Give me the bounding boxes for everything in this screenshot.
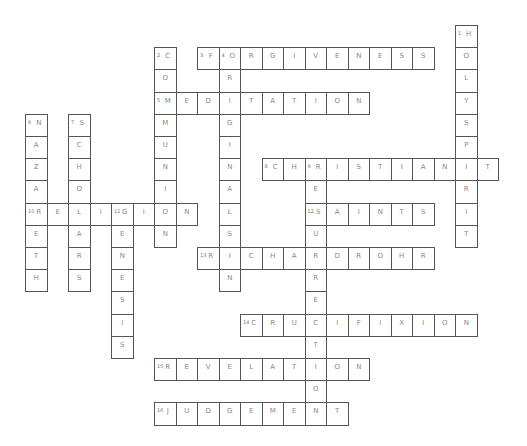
- crossword-cell[interactable]: I: [412, 314, 435, 337]
- crossword-cell[interactable]: A: [25, 180, 48, 203]
- crossword-cell[interactable]: I: [455, 158, 478, 181]
- crossword-cell[interactable]: A: [283, 247, 306, 270]
- crossword-cell[interactable]: A: [219, 180, 242, 203]
- crossword-cell[interactable]: S: [111, 291, 134, 314]
- crossword-cell[interactable]: L: [455, 69, 478, 92]
- crossword-cell[interactable]: 8C: [262, 158, 285, 181]
- crossword-cell[interactable]: Z: [25, 158, 48, 181]
- crossword-cell[interactable]: H: [283, 158, 306, 181]
- crossword-cell[interactable]: S: [111, 336, 134, 359]
- crossword-cell[interactable]: S: [455, 114, 478, 137]
- crossword-cell[interactable]: 16J: [154, 402, 177, 425]
- crossword-cell[interactable]: S: [219, 225, 242, 248]
- crossword-cell[interactable]: T: [305, 336, 328, 359]
- crossword-cell[interactable]: I: [391, 158, 414, 181]
- crossword-cell[interactable]: A: [262, 92, 285, 115]
- crossword-cell[interactable]: T: [326, 402, 349, 425]
- crossword-cell[interactable]: G: [262, 47, 285, 70]
- crossword-cell[interactable]: O: [154, 203, 177, 226]
- crossword-cell[interactable]: E: [47, 203, 70, 226]
- crossword-cell[interactable]: N: [219, 269, 242, 292]
- crossword-cell[interactable]: G: [219, 402, 242, 425]
- crossword-cell[interactable]: O: [326, 92, 349, 115]
- crossword-cell[interactable]: R: [305, 269, 328, 292]
- crossword-cell[interactable]: E: [111, 225, 134, 248]
- crossword-cell[interactable]: T: [455, 225, 478, 248]
- crossword-cell[interactable]: S: [412, 203, 435, 226]
- crossword-cell[interactable]: 7S: [68, 114, 91, 137]
- crossword-cell[interactable]: N: [434, 158, 457, 181]
- crossword-cell[interactable]: T: [283, 92, 306, 115]
- crossword-cell[interactable]: N: [348, 47, 371, 70]
- crossword-cell[interactable]: I: [326, 158, 349, 181]
- crossword-cell[interactable]: R: [68, 247, 91, 270]
- crossword-cell[interactable]: I: [219, 136, 242, 159]
- crossword-cell[interactable]: O: [68, 180, 91, 203]
- crossword-cell[interactable]: I: [455, 203, 478, 226]
- crossword-cell[interactable]: T: [25, 247, 48, 270]
- crossword-cell[interactable]: X: [391, 314, 414, 337]
- crossword-cell[interactable]: N: [111, 247, 134, 270]
- crossword-cell[interactable]: I: [326, 314, 349, 337]
- crossword-cell[interactable]: H: [391, 247, 414, 270]
- crossword-cell[interactable]: U: [154, 136, 177, 159]
- crossword-cell[interactable]: O: [154, 69, 177, 92]
- crossword-cell[interactable]: A: [262, 358, 285, 381]
- crossword-cell[interactable]: R: [305, 247, 328, 270]
- crossword-cell[interactable]: O: [326, 358, 349, 381]
- crossword-cell[interactable]: H: [262, 247, 285, 270]
- crossword-cell[interactable]: H: [25, 269, 48, 292]
- crossword-cell[interactable]: E: [240, 402, 263, 425]
- crossword-cell[interactable]: F: [348, 314, 371, 337]
- crossword-cell[interactable]: 3F: [197, 47, 220, 70]
- crossword-cell[interactable]: O: [305, 380, 328, 403]
- crossword-cell[interactable]: S: [391, 47, 414, 70]
- crossword-cell[interactable]: M: [154, 114, 177, 137]
- crossword-cell[interactable]: N: [348, 92, 371, 115]
- crossword-cell[interactable]: A: [326, 203, 349, 226]
- crossword-cell[interactable]: R: [412, 247, 435, 270]
- crossword-cell[interactable]: M: [262, 402, 285, 425]
- crossword-cell[interactable]: I: [348, 203, 371, 226]
- crossword-cell[interactable]: I: [154, 180, 177, 203]
- crossword-cell[interactable]: 14C: [240, 314, 263, 337]
- crossword-cell[interactable]: S: [348, 158, 371, 181]
- crossword-cell[interactable]: R: [455, 180, 478, 203]
- crossword-cell[interactable]: I: [305, 92, 328, 115]
- crossword-cell[interactable]: E: [326, 47, 349, 70]
- crossword-cell[interactable]: T: [369, 158, 392, 181]
- crossword-cell[interactable]: V: [305, 47, 328, 70]
- crossword-cell[interactable]: T: [391, 203, 414, 226]
- crossword-cell[interactable]: I: [369, 314, 392, 337]
- crossword-cell[interactable]: N: [455, 314, 478, 337]
- crossword-cell[interactable]: U: [305, 225, 328, 248]
- crossword-cell[interactable]: 5M: [154, 92, 177, 115]
- crossword-cell[interactable]: L: [68, 203, 91, 226]
- crossword-cell[interactable]: C: [68, 136, 91, 159]
- crossword-cell[interactable]: A: [68, 225, 91, 248]
- crossword-cell[interactable]: N: [348, 358, 371, 381]
- crossword-cell[interactable]: U: [283, 314, 306, 337]
- crossword-cell[interactable]: 4O: [219, 47, 242, 70]
- crossword-cell[interactable]: 2C: [154, 47, 177, 70]
- crossword-cell[interactable]: N: [219, 158, 242, 181]
- crossword-cell[interactable]: N: [305, 402, 328, 425]
- crossword-cell[interactable]: N: [369, 203, 392, 226]
- crossword-cell[interactable]: R: [240, 47, 263, 70]
- crossword-cell[interactable]: E: [305, 291, 328, 314]
- crossword-cell[interactable]: T: [283, 358, 306, 381]
- crossword-cell[interactable]: R: [262, 314, 285, 337]
- crossword-cell[interactable]: G: [219, 114, 242, 137]
- crossword-cell[interactable]: E: [111, 269, 134, 292]
- crossword-cell[interactable]: A: [412, 158, 435, 181]
- crossword-cell[interactable]: I: [305, 358, 328, 381]
- crossword-cell[interactable]: 13R: [197, 247, 220, 270]
- crossword-cell[interactable]: T: [477, 158, 500, 181]
- crossword-cell[interactable]: I: [283, 47, 306, 70]
- crossword-cell[interactable]: O: [369, 247, 392, 270]
- crossword-cell[interactable]: 11G: [111, 203, 134, 226]
- crossword-cell[interactable]: V: [197, 358, 220, 381]
- crossword-cell[interactable]: E: [176, 92, 199, 115]
- crossword-cell[interactable]: S: [68, 269, 91, 292]
- crossword-cell[interactable]: D: [326, 247, 349, 270]
